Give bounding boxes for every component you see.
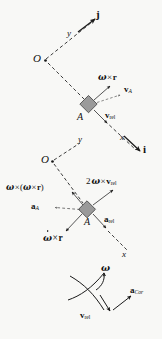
a-Cor-label: aCor [130, 286, 143, 296]
paren-close-glyph: ) [41, 182, 44, 192]
velocity-axis-y-label: y [67, 29, 71, 38]
coriolis-path-curve-b [68, 273, 104, 300]
velocity-position-vector-r [48, 63, 84, 99]
v-rel-arrow-coriolis [100, 295, 110, 311]
centripetal-acceleration-arrow [72, 192, 83, 205]
a-Cor-arrow [113, 296, 131, 310]
a-rel-subscript: rel [109, 218, 115, 224]
omega-glyph: ω [43, 232, 52, 243]
acceleration-axis-x [108, 231, 128, 251]
omega-glyph-inner: ω [23, 182, 31, 192]
omega-cross-r-label: ω×r [98, 73, 117, 82]
unit-vector-j-label: j [96, 9, 100, 20]
a-A-label: aA [31, 202, 39, 212]
v-rel-subscript: rel [85, 314, 91, 320]
coriolis-path-curve-a [70, 276, 104, 310]
v-rel-subscript: rel [111, 180, 117, 186]
acceleration-origin-label: O [41, 154, 49, 165]
velocity-axis-x-label: x [120, 133, 124, 142]
acceleration-axis-y-label: y [78, 135, 82, 144]
omega-glyph: ω [91, 176, 101, 186]
figure-canvas: j y O ω×r vA A vrel x i y O ω×(ω×r) aA 2… [0, 0, 162, 339]
v-rel-label-coriolis: vrel [80, 311, 90, 321]
v-rel-label-velocity: vrel [105, 111, 115, 121]
omega-curved-arrow [96, 273, 104, 290]
omega-glyph: ω [98, 72, 107, 82]
acceleration-axis-y [54, 143, 80, 160]
v-A-subscript: A [129, 88, 132, 94]
overdot-mark [47, 230, 49, 232]
r-vector-glyph: r [113, 72, 117, 82]
v-rel-subscript: rel [110, 114, 116, 120]
angular-acceleration-cross-r-label: ω×r [43, 233, 63, 244]
a-rel-label: arel [104, 215, 114, 225]
coriolis-acceleration-label: 2ω×vrel [86, 177, 117, 187]
block-A-velocity-label: A [77, 112, 83, 122]
centripetal-acceleration-label: ω×(ω×r) [6, 183, 44, 192]
unit-vector-i-arrow [124, 136, 140, 151]
omega-cross-r-arrow [94, 86, 110, 100]
v-A-arrow [97, 95, 120, 103]
velocity-origin-label: O [33, 53, 41, 64]
angular-acceleration-cross-r-arrow [66, 214, 82, 231]
unit-vector-j-arrow [78, 19, 95, 32]
a-A-arrow [55, 208, 80, 210]
r-vector-glyph: r [58, 233, 62, 243]
velocity-origin-dot [44, 59, 47, 62]
unit-vector-i-label: i [143, 144, 146, 155]
coefficient-two: 2 [86, 176, 91, 186]
acceleration-position-vector-r [54, 164, 83, 203]
a-A-subscript: A [36, 205, 39, 211]
coriolis-omega-label: ω [101, 263, 110, 273]
acceleration-axis-x-label: x [122, 250, 126, 259]
a-Cor-subscript: Cor [135, 289, 144, 295]
acceleration-origin-dot [51, 160, 54, 163]
coriolis-panel [68, 273, 131, 311]
v-A-label: vA [124, 85, 132, 95]
omega-dot-glyph: ω [43, 233, 52, 244]
block-A-acceleration-label: A [84, 217, 90, 227]
coriolis-acceleration-arrow [93, 190, 113, 205]
omega-glyph: ω [6, 182, 14, 192]
